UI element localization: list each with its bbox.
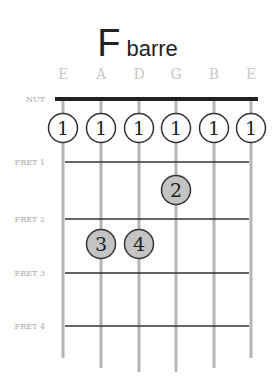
fret-label: FRET 2 — [15, 215, 45, 224]
string-name: E — [246, 66, 256, 82]
fret-label: FRET 4 — [15, 322, 45, 331]
finger-marker: 1 — [237, 114, 266, 143]
finger-marker: 1 — [87, 114, 116, 143]
fret-label: FRET 1 — [15, 158, 45, 167]
finger-marker: 3 — [87, 230, 116, 259]
svg-text:1: 1 — [208, 117, 220, 139]
string-name: G — [170, 66, 181, 82]
string-name: A — [95, 66, 107, 82]
finger-marker: 1 — [125, 114, 154, 143]
string-name: D — [133, 66, 144, 82]
fret-label: FRET 3 — [15, 269, 45, 278]
svg-text:3: 3 — [95, 233, 107, 255]
finger-marker: 1 — [49, 114, 78, 143]
svg-text:2: 2 — [170, 179, 182, 201]
nut-label: NUT — [26, 95, 46, 104]
finger-markers: 1 1 1 1 1 1 2 3 4 — [49, 114, 266, 259]
finger-marker: 1 — [200, 114, 229, 143]
finger-marker: 4 — [125, 230, 154, 259]
svg-text:1: 1 — [133, 117, 145, 139]
svg-text:1: 1 — [57, 117, 69, 139]
string-names: E A D G B E — [58, 66, 256, 82]
svg-text:1: 1 — [245, 117, 257, 139]
string-name: B — [209, 66, 219, 82]
string-name: E — [58, 66, 68, 82]
chord-diagram: E A D G B E NUT FRET 1 FRET 2 FRET 3 FRE… — [0, 0, 275, 387]
row-labels: NUT FRET 1 FRET 2 FRET 3 FRET 4 — [15, 95, 46, 331]
finger-marker: 2 — [162, 176, 191, 205]
svg-text:1: 1 — [95, 117, 107, 139]
svg-text:4: 4 — [133, 233, 145, 255]
svg-text:1: 1 — [170, 117, 182, 139]
finger-marker: 1 — [162, 114, 191, 143]
